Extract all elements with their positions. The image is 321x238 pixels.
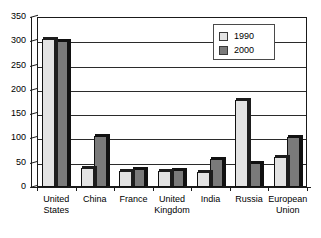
- x-tick-mark: [37, 187, 38, 191]
- x-category-label-line1: European: [268, 194, 307, 204]
- bar-side-face: [299, 135, 303, 186]
- y-tick-label: 200: [0, 85, 26, 94]
- bar-1990-united-states: [42, 39, 55, 187]
- legend: 1990 2000: [213, 24, 275, 60]
- x-category-label-line1: United: [43, 194, 69, 204]
- x-tick-mark: [76, 187, 77, 191]
- legend-item-1990: 1990: [219, 29, 274, 43]
- bar-1990-india: [197, 172, 210, 187]
- legend-swatch-2000-icon: [219, 46, 228, 55]
- x-category-label-line2: States: [32, 205, 81, 216]
- bar-side-face: [106, 134, 110, 186]
- x-tick-mark: [307, 187, 308, 191]
- x-tick-mark: [114, 187, 115, 191]
- bar-group: [76, 17, 115, 187]
- x-tick-mark: [191, 187, 192, 191]
- x-category-label: EuropeanUnion: [263, 194, 312, 215]
- y-tick-label: 0: [0, 182, 26, 191]
- bar-1990-european-union: [274, 157, 287, 187]
- bar-side-face: [67, 39, 71, 186]
- y-tick-label: 50: [0, 158, 26, 167]
- bar-chart: 350300250200150100500 UnitedStatesChinaF…: [0, 0, 321, 238]
- legend-swatch-1990-icon: [219, 32, 228, 41]
- x-tick-mark: [153, 187, 154, 191]
- x-category-label-line1: France: [119, 194, 147, 204]
- bar-side-face: [286, 155, 290, 186]
- y-axis-back-line: [31, 17, 32, 188]
- x-category-label-line1: United: [159, 194, 185, 204]
- bar-group: [114, 17, 153, 187]
- y-tick-label: 250: [0, 61, 26, 70]
- y-tick-label: 100: [0, 133, 26, 142]
- x-category-label-line2: Kingdom: [148, 205, 197, 216]
- bar-1990-united-kingdom: [158, 171, 171, 187]
- bar-side-face: [260, 161, 264, 186]
- bar-1990-russia: [235, 100, 248, 187]
- y-tick-label: 350: [0, 12, 26, 21]
- x-tick-mark: [230, 187, 231, 191]
- bar-group: [153, 17, 192, 187]
- bar-side-face: [54, 37, 58, 186]
- bar-group: [37, 17, 76, 187]
- bar-side-face: [93, 166, 97, 186]
- bar-side-face: [222, 157, 226, 186]
- y-tick-label: 150: [0, 109, 26, 118]
- bar-side-face: [170, 169, 174, 186]
- x-category-label-line1: Russia: [235, 194, 263, 204]
- bar-side-face: [131, 169, 135, 186]
- x-category-label-line1: China: [83, 194, 107, 204]
- x-category-label-line1: India: [201, 194, 221, 204]
- bar-1990-china: [81, 168, 94, 187]
- x-category-label-line2: Union: [263, 205, 312, 216]
- bar-side-face: [183, 168, 187, 186]
- bar-1990-france: [119, 171, 132, 187]
- legend-label-2000: 2000: [234, 46, 254, 55]
- bar-side-face: [144, 167, 148, 186]
- y-tick-label: 300: [0, 36, 26, 45]
- bar-side-face: [247, 98, 251, 186]
- legend-label-1990: 1990: [234, 32, 254, 41]
- x-tick-mark: [268, 187, 269, 191]
- legend-item-2000: 2000: [219, 43, 274, 57]
- bar-side-face: [209, 170, 213, 186]
